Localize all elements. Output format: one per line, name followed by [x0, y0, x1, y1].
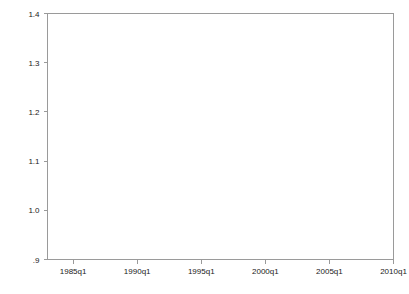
line-chart-svg — [0, 0, 409, 294]
chart-background — [0, 0, 409, 294]
chart-figure: Index (1983q1 = 1.00) 1.41.31.21.11.0.9 … — [0, 0, 409, 294]
plot-area — [0, 0, 409, 294]
